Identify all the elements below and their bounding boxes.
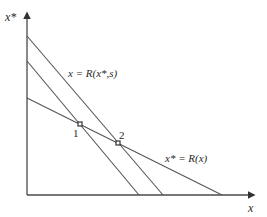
y-axis-label: x* <box>4 10 16 24</box>
curve-label-x-shifted: x = R(x*,s) <box>67 67 118 80</box>
equilibrium-point-1 <box>78 122 82 126</box>
equilibrium-label-2: 2 <box>119 129 125 141</box>
curve-reaction-x-original <box>27 61 139 195</box>
equilibrium-point-2 <box>116 141 120 145</box>
reaction-curve-diagram: x* x x = R(x*,s) x* = R(x) 1 2 <box>0 0 267 217</box>
equilibrium-label-1: 1 <box>73 127 79 139</box>
curve-reaction-x-shifted <box>27 36 163 195</box>
curve-label-xstar: x* = R(x) <box>164 152 208 165</box>
x-axis-label: x <box>247 201 254 215</box>
curve-reaction-xstar <box>27 98 222 195</box>
